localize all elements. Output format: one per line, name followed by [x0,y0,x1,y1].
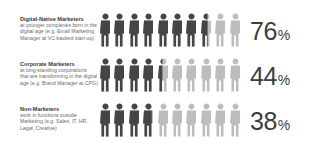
row-label: Corporate Marketers at long-standing cor… [20,61,104,86]
person-icon [201,103,212,137]
person-icon [201,13,212,47]
person-icon [230,58,241,92]
person-icon [172,13,183,47]
row-desc-line: Manager at VC-backed start-up) [20,35,104,41]
person-icon [186,58,197,92]
person-icon [143,103,154,137]
person-icon [215,103,226,137]
person-icon [114,103,125,137]
percentage-value: 44% [250,62,290,91]
row-desc-line: age (e.g. Brand Manager at CPG) [20,80,104,86]
person-icon [114,58,125,92]
row-desc-line: digital age (e.g. Email Marketing [20,28,104,34]
person-icon [143,58,154,92]
person-icon [129,103,140,137]
person-icon [230,103,241,137]
person-icon [129,58,140,92]
percentage-value: 76% [250,17,290,46]
person-icon [158,13,169,47]
person-icon [158,103,169,137]
person-icon [114,13,125,47]
person-icons [100,103,246,139]
row-desc-line: that are transforming in the digital [20,73,104,79]
person-icons [100,13,246,49]
person-icon [215,58,226,92]
row-desc-line: Legal, Creative) [20,125,104,131]
row-digital-native: Digital-Native Marketers at younger comp… [0,13,310,53]
person-icon [100,13,111,47]
person-icon [129,13,140,47]
person-icon [100,103,111,137]
person-icon [172,58,183,92]
row-label: Non-Marketers work in functions outside … [20,106,104,131]
person-icon [186,13,197,47]
person-icons [100,58,246,94]
person-icon [201,58,212,92]
person-icon [158,58,169,92]
row-corporate: Corporate Marketers at long-standing cor… [0,58,310,98]
percentage-value: 38% [250,107,290,136]
person-icon [186,103,197,137]
person-icon [143,13,154,47]
row-non-marketers: Non-Marketers work in functions outside … [0,103,310,143]
person-icon [172,103,183,137]
person-icon [230,13,241,47]
row-label: Digital-Native Marketers at younger comp… [20,16,104,41]
person-icon [215,13,226,47]
person-icon [100,58,111,92]
